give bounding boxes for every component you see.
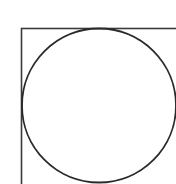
background — [0, 0, 176, 184]
diagram-canvas — [0, 0, 176, 184]
